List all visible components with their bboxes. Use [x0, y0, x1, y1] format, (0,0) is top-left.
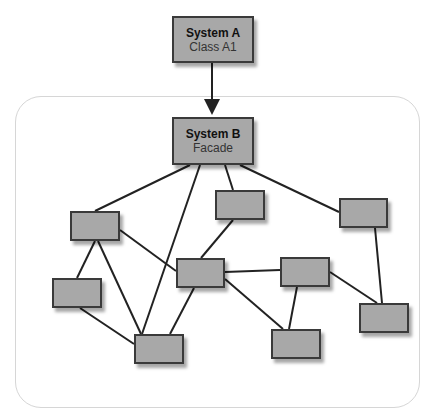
connector-line	[142, 165, 200, 334]
subsystem-box-n1[interactable]	[70, 211, 120, 241]
system-a-subtitle: Class A1	[189, 40, 236, 54]
subsystem-box-n2[interactable]	[215, 190, 265, 220]
system-a-title: System A	[186, 26, 240, 40]
system-b-title: System B	[186, 127, 241, 141]
connector-line	[330, 272, 377, 303]
connector-line	[289, 287, 297, 329]
subsystem-box-n3[interactable]	[339, 198, 388, 228]
connector-line	[98, 241, 141, 334]
subsystem-box-n5[interactable]	[176, 258, 225, 288]
system-a-box[interactable]: System A Class A1	[172, 16, 254, 63]
connector-line	[225, 165, 233, 190]
connector-line	[201, 220, 233, 258]
connector-line	[95, 165, 190, 211]
connector-line	[170, 288, 194, 334]
subsystem-box-n8[interactable]	[134, 334, 184, 364]
subsystem-box-n6[interactable]	[280, 257, 330, 287]
connector-line	[225, 279, 283, 329]
connector-line	[120, 230, 176, 271]
connector-line	[77, 241, 95, 278]
subsystem-box-n7[interactable]	[359, 303, 409, 333]
subsystem-box-n9[interactable]	[271, 329, 321, 359]
connector-line	[375, 228, 382, 303]
system-b-facade-box[interactable]: System B Facade	[172, 117, 254, 165]
connector-line	[225, 270, 280, 272]
subsystem-box-n4[interactable]	[52, 278, 102, 308]
system-b-subtitle: Facade	[193, 141, 233, 155]
connector-line	[80, 308, 134, 344]
